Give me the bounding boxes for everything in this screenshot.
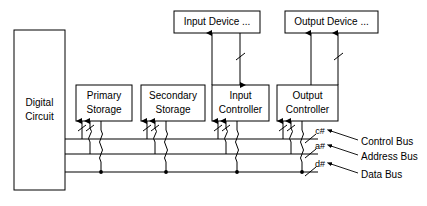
secondary-storage-bus-stubs <box>143 121 168 174</box>
bus-architecture-diagram: Digital Circuit Primary Storage Secondar… <box>0 0 427 206</box>
primary-storage-bus-stubs <box>78 121 103 174</box>
address-bus-tag: a# <box>315 141 325 151</box>
data-bus-annotation: d# Data Bus <box>305 159 402 180</box>
control-bus-tag: c# <box>315 126 325 136</box>
control-bus-name: Control Bus <box>361 136 413 147</box>
primary-storage-block: Primary Storage <box>76 85 132 174</box>
secondary-storage-block: Secondary Storage <box>141 85 205 174</box>
address-bus-name: Address Bus <box>361 151 418 162</box>
input-device-block: Input Device ... <box>174 11 260 85</box>
output-controller-block: Output Controller <box>277 85 338 174</box>
input-controller-label-line2: Controller <box>219 104 263 115</box>
output-controller-label-line2: Controller <box>286 104 330 115</box>
data-bus-name: Data Bus <box>361 169 402 180</box>
output-controller-label-line1: Output <box>292 90 322 101</box>
control-bus-leader <box>331 131 358 140</box>
data-bus-tag: d# <box>315 159 325 169</box>
output-device-block: Output Device ... <box>285 11 378 85</box>
data-bus-leader <box>331 164 358 173</box>
output-controller-bus-stubs <box>279 121 304 174</box>
digital-circuit-label-line2: Circuit <box>25 111 54 122</box>
input-device-label: Input Device ... <box>184 16 251 27</box>
diagram-canvas: Digital Circuit Primary Storage Secondar… <box>0 0 427 206</box>
primary-storage-label-line1: Primary <box>87 90 121 101</box>
output-device-label: Output Device ... <box>294 16 368 27</box>
digital-circuit-label-line1: Digital <box>26 97 54 108</box>
bus-lines <box>65 139 318 172</box>
primary-storage-label-line2: Storage <box>86 104 121 115</box>
secondary-storage-label-line2: Storage <box>155 104 190 115</box>
secondary-storage-label-line1: Secondary <box>149 90 197 101</box>
input-controller-label-line1: Input <box>229 90 251 101</box>
input-controller-bus-stubs <box>214 121 239 174</box>
digital-circuit-block: Digital Circuit <box>14 30 65 190</box>
address-bus-leader <box>331 146 358 155</box>
input-controller-block: Input Controller <box>212 85 269 174</box>
